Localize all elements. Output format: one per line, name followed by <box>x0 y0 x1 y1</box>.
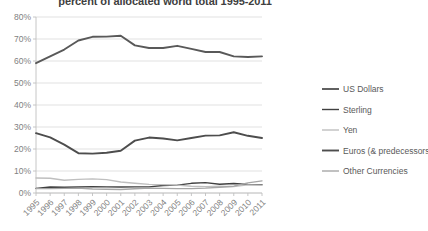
legend-label: US Dollars <box>343 84 384 94</box>
legend-item-other-currencies[interactable]: Other Currencies <box>322 166 408 176</box>
gridlines-group <box>33 17 262 193</box>
y-tick-label: 40% <box>14 100 31 110</box>
series-line-yen <box>36 178 262 187</box>
series-line-other-currencies <box>36 181 262 190</box>
series-group <box>36 36 262 190</box>
y-tick-label: 60% <box>14 56 31 66</box>
line-chart-plot: 0%10%20%30%40%50%60%70%80% 1995199619971… <box>0 0 428 231</box>
y-tick-label: 20% <box>14 144 31 154</box>
y-tick-label: 70% <box>14 34 31 44</box>
series-line-us-dollars <box>36 36 262 64</box>
y-axis-labels-group: 0%10%20%30%40%50%60%70%80% <box>14 12 31 198</box>
x-tick-label: 2011 <box>247 197 267 217</box>
chart-container: percent of allocated world total 1995-20… <box>0 0 428 231</box>
legend-label: Other Currencies <box>343 166 408 176</box>
legend-item-sterling[interactable]: Sterling <box>322 105 372 115</box>
legend-label: Sterling <box>343 105 372 115</box>
y-tick-label: 80% <box>14 12 31 22</box>
y-tick-label: 0% <box>19 188 32 198</box>
legend-item-us-dollars[interactable]: US Dollars <box>322 84 384 94</box>
legend-label: Yen <box>343 125 358 135</box>
legend-item-euros-predecessors[interactable]: Euros (& predecessors) <box>322 146 428 156</box>
y-tick-label: 50% <box>14 78 31 88</box>
y-tick-label: 10% <box>14 166 31 176</box>
legend-label: Euros (& predecessors) <box>343 146 428 156</box>
x-axis-group <box>36 17 262 196</box>
chart-legend: US DollarsSterlingYenEuros (& predecesso… <box>322 84 428 176</box>
legend-item-yen[interactable]: Yen <box>322 125 358 135</box>
y-tick-label: 30% <box>14 122 31 132</box>
series-line-euros-predecessors <box>36 132 262 153</box>
x-axis-labels-group: 1995199619971998199920002001200220032004… <box>21 197 268 218</box>
